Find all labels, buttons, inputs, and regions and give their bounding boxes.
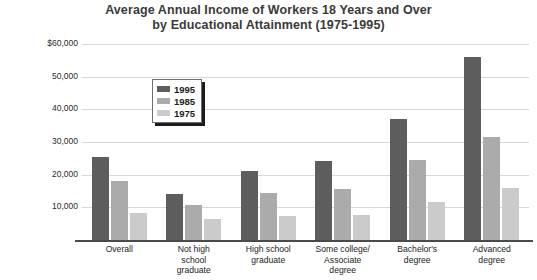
category-label: Overall — [82, 244, 157, 255]
y-axis-tick-labels: $60,00050,00040,00030,00020,00010,000 — [16, 44, 78, 240]
chart-title: Average Annual Income of Workers 18 Year… — [0, 3, 537, 33]
gridline-20000 — [82, 175, 529, 176]
bar — [428, 202, 445, 240]
category-label-line: Not high — [157, 244, 232, 255]
y-tick-label-50000: 50,000 — [20, 72, 78, 81]
bar — [464, 57, 481, 240]
legend-label: 1985 — [174, 96, 195, 107]
bar — [260, 193, 277, 240]
x-axis-category-labels: OverallNot highschoolgraduateHigh school… — [82, 244, 529, 280]
category-label-line: Advanced — [455, 244, 530, 255]
y-tick-label-40000: 40,000 — [20, 104, 78, 113]
y-tick-label-10000: 10,000 — [20, 202, 78, 211]
bar — [390, 119, 407, 240]
category-label-line: graduate — [157, 265, 232, 276]
category-label-line: degree — [380, 255, 455, 266]
bar-group — [166, 44, 221, 240]
category-label-line: degree — [306, 265, 381, 276]
bar — [353, 215, 370, 240]
gridline-50000 — [82, 77, 529, 78]
chart-title-line-2: by Educational Attainment (1975-1995) — [0, 18, 537, 33]
bar-group — [241, 44, 296, 240]
category-label-line: degree — [455, 255, 530, 266]
bar — [409, 160, 426, 240]
y-tick-label-30000: 30,000 — [20, 137, 78, 146]
category-label: Bachelor'sdegree — [380, 244, 455, 265]
category-label: Some college/Associatedegree — [306, 244, 381, 276]
bar — [166, 194, 183, 240]
legend-swatch-icon — [157, 98, 170, 104]
chart-title-line-1: Average Annual Income of Workers 18 Year… — [0, 3, 537, 18]
bar — [315, 161, 332, 240]
gridline-10000 — [82, 207, 529, 208]
chart-legend: 199519851975 — [152, 79, 202, 123]
bar — [185, 205, 202, 240]
bar — [92, 157, 109, 240]
bar — [279, 216, 296, 240]
category-label-line: High school — [231, 244, 306, 255]
category-label-line: Some college/ — [306, 244, 381, 255]
legend-item: 1975 — [157, 107, 195, 119]
category-label: Advanceddegree — [455, 244, 530, 265]
legend-item: 1985 — [157, 95, 195, 107]
legend-swatch-icon — [157, 110, 170, 116]
legend-label: 1975 — [174, 108, 195, 119]
bar-group — [390, 44, 445, 240]
category-label-line: Associate — [306, 255, 381, 266]
category-label: High schoolgraduate — [231, 244, 306, 265]
gridline-30000 — [82, 142, 529, 143]
gridline-40000 — [82, 109, 529, 110]
bar — [204, 219, 221, 240]
bar-chart-figure: Average Annual Income of Workers 18 Year… — [0, 0, 537, 280]
bar — [111, 181, 128, 240]
bar-group — [92, 44, 147, 240]
legend-item: 1995 — [157, 83, 195, 95]
category-label-line: school — [157, 255, 232, 266]
bar-group — [464, 44, 519, 240]
bar — [241, 171, 258, 240]
category-label-line: Overall — [82, 244, 157, 255]
category-label: Not highschoolgraduate — [157, 244, 232, 276]
bar — [334, 189, 351, 240]
x-axis-baseline — [75, 240, 533, 242]
y-tick-label-60000: $60,000 — [20, 39, 78, 48]
legend-swatch-icon — [157, 86, 170, 92]
gridline-60000 — [82, 44, 529, 45]
bar — [483, 137, 500, 240]
category-label-line: Bachelor's — [380, 244, 455, 255]
bar — [502, 188, 519, 240]
legend-label: 1995 — [174, 84, 195, 95]
category-label-line: graduate — [231, 255, 306, 266]
plot-area — [82, 44, 529, 240]
y-tick-label-20000: 20,000 — [20, 170, 78, 179]
bar-group — [315, 44, 370, 240]
bar — [130, 213, 147, 240]
